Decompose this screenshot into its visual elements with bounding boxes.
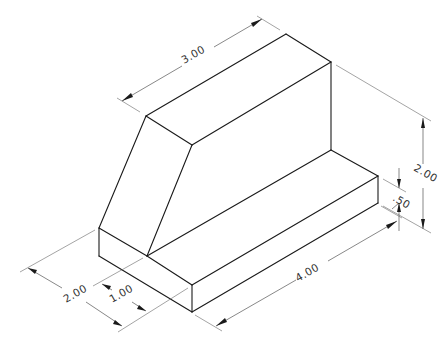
arrow-icon [216, 318, 227, 326]
dimension-label-step-height: .50 [391, 191, 413, 210]
dimension-step-depth: 1.00 [93, 258, 146, 311]
dimension-label-overall-height: 2.00 [412, 161, 440, 184]
isometric-drawing: 3.00 2.00 .50 4.00 2.00 [0, 0, 447, 349]
dimension-overall-height: 2.00 [336, 65, 440, 233]
dimension-overall-length: 4.00 [195, 206, 402, 331]
dimension-label-overall-length: 4.00 [293, 261, 321, 284]
arrow-icon [386, 221, 397, 229]
arrow-icon [421, 118, 425, 128]
dimension-step-height: .50 [383, 168, 413, 231]
arrow-icon [397, 179, 401, 188]
dimension-label-step-depth: 1.00 [107, 282, 135, 305]
arrow-icon [102, 284, 111, 290]
arrow-icon [122, 93, 133, 101]
arrow-icon [28, 268, 37, 274]
dimension-label-top-length: 3.00 [179, 43, 207, 66]
dimension-label-overall-depth: 2.00 [61, 282, 89, 305]
arrow-icon [251, 19, 262, 27]
